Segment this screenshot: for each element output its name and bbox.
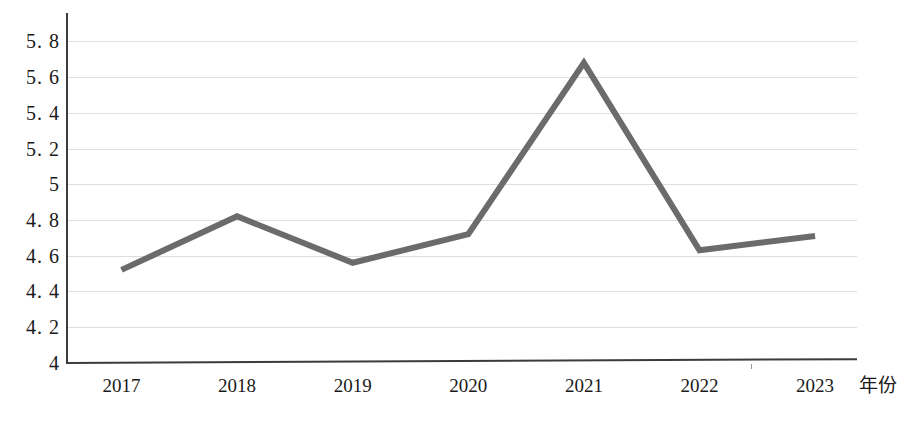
x-axis-tick-label: 2023 — [796, 376, 834, 395]
x-axis-tick-label: 2021 — [565, 376, 603, 395]
x-axis-tick-label: 2017 — [103, 376, 141, 395]
x-axis-tick-labels: 2017201820192020202120222023 — [0, 0, 907, 437]
x-axis-tick-label: 2020 — [449, 376, 487, 395]
x-axis-title: 年份 — [859, 376, 897, 395]
x-axis-tick-label: 2022 — [681, 376, 719, 395]
x-axis-tick-label: 2019 — [334, 376, 372, 395]
x-axis-tick-label: 2018 — [218, 376, 256, 395]
line-chart: 44. 24. 44. 64. 855. 25. 45. 65. 8 20172… — [0, 0, 907, 437]
